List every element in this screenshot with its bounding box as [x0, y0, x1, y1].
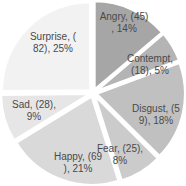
pie-label-contempt: Contempt,(18), 5% — [127, 53, 173, 76]
pie-chart: Angry, (45), 14%Contempt,(18), 5%Disgust… — [0, 0, 186, 186]
pie-label-disgust: Disgust, (59), 18% — [132, 103, 180, 126]
pie-label-surprise: Surprise, (82), 25% — [30, 31, 77, 54]
